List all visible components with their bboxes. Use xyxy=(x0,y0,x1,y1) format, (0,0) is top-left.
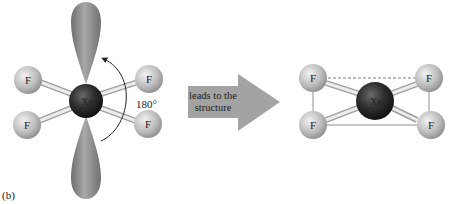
svg-text:F: F xyxy=(310,72,316,84)
fluorine-atom: F xyxy=(299,64,327,92)
svg-text:F: F xyxy=(426,72,432,84)
right-molecule: F F F F Xe xyxy=(299,64,445,139)
fluorine-atom: F xyxy=(13,111,41,139)
xef4-structure-diagram: 180° F F F F Xe (b) leads to the structu… xyxy=(0,0,449,204)
svg-text:F: F xyxy=(428,119,434,131)
angle-arc xyxy=(101,59,126,141)
transition-arrow: leads to the structure xyxy=(188,74,280,131)
svg-text:Xe: Xe xyxy=(370,96,382,107)
lone-pair-lobe-top xyxy=(71,2,101,84)
fluorine-atom: F xyxy=(415,64,443,92)
svg-text:Xe: Xe xyxy=(81,96,93,107)
arrow-text-line2: structure xyxy=(195,102,232,113)
svg-text:F: F xyxy=(24,119,30,131)
left-molecule: 180° F F F F Xe xyxy=(13,2,163,199)
svg-text:F: F xyxy=(310,119,316,131)
fluorine-atom: F xyxy=(134,110,162,138)
fluorine-atom: F xyxy=(14,66,42,94)
lone-pair-lobe-bottom xyxy=(71,116,101,199)
fluorine-atom: F xyxy=(135,65,163,93)
fluorine-atom: F xyxy=(417,111,445,139)
panel-label: (b) xyxy=(2,189,15,202)
xenon-atom: Xe xyxy=(356,82,394,120)
svg-text:F: F xyxy=(146,73,152,85)
fluorine-atom: F xyxy=(299,111,327,139)
angle-label: 180° xyxy=(136,98,157,110)
xenon-atom: Xe xyxy=(69,84,103,118)
svg-text:F: F xyxy=(145,118,151,130)
arrow-text-line1: leads to the xyxy=(189,90,237,101)
svg-text:F: F xyxy=(25,74,31,86)
